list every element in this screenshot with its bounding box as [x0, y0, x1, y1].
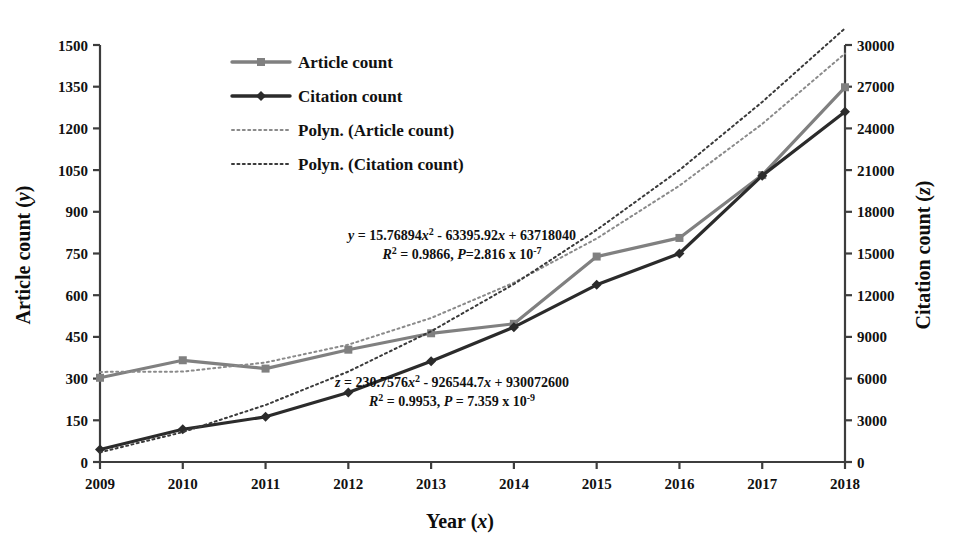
citation-eq-body: = 230.7576 [340, 375, 407, 390]
citation-eq-var1: x [407, 375, 415, 390]
citation-eq-p-body: = 7.359 x 10 [452, 394, 526, 409]
left-axis-tick-label: 0 [81, 455, 89, 471]
left-axis-title: Article count (y) [12, 186, 35, 325]
article-eq-p-body: =2.816 x 10 [466, 247, 533, 262]
x-axis-tick-label: 2014 [499, 476, 530, 492]
left-axis-tick-label: 150 [66, 413, 89, 429]
x-axis-title: Year (x) [426, 510, 494, 533]
data-point-marker [96, 374, 104, 382]
right-axis-title-end: ) [912, 181, 935, 188]
svg-text:R2 = 0.9866, P=2.816 x 10-7: R2 = 0.9866, P=2.816 x 10-7 [381, 245, 541, 262]
left-axis-title-var: y [12, 192, 35, 203]
svg-text:Year (x): Year (x) [426, 510, 494, 533]
article-eq-p-sup: -7 [533, 245, 541, 256]
right-axis-tick-label: 15000 [857, 246, 895, 262]
article-eq-var2: x [497, 228, 505, 243]
data-point-marker [179, 356, 187, 364]
article-eq-r-lead: R [381, 247, 391, 262]
x-axis-tick-label: 2011 [251, 476, 280, 492]
right-axis-tick-label: 30000 [857, 38, 895, 54]
left-axis-tick-label: 1200 [58, 121, 88, 137]
legend-item-label: Polyn. (Citation count) [298, 155, 464, 174]
left-axis-tick-label: 1500 [58, 38, 88, 54]
x-axis-title-var: x [476, 510, 487, 532]
citation-eq-body2: - 926544.7 [420, 375, 484, 390]
data-point-marker [344, 346, 352, 354]
right-axis-tick-label: 6000 [857, 371, 887, 387]
article-eq-r-body: = 0.9866, [397, 247, 457, 262]
right-axis-tick-label: 9000 [857, 329, 887, 345]
data-point-marker [675, 234, 683, 242]
article-eq-body3: + 63718040 [505, 228, 576, 243]
right-axis-title-text: Citation count ( [912, 195, 935, 330]
citation-eq-r-body: = 0.9953, [383, 394, 443, 409]
left-axis-tick-label: 300 [66, 371, 89, 387]
data-point-marker [593, 253, 601, 261]
x-axis-tick-label: 2016 [664, 476, 695, 492]
x-axis-tick-label: 2012 [333, 476, 363, 492]
svg-text:R2 = 0.9953, P = 7.359 x 10-9: R2 = 0.9953, P = 7.359 x 10-9 [368, 392, 535, 409]
left-axis-tick-label: 450 [66, 329, 89, 345]
right-axis-tick-label: 3000 [857, 413, 887, 429]
x-axis-tick-label: 2013 [416, 476, 446, 492]
right-axis-tick-label: 18000 [857, 204, 895, 220]
article-eq-var1: x [421, 228, 429, 243]
citation-eq-r-lead: R [368, 394, 378, 409]
article-eq-body2: - 63395.92 [434, 228, 498, 243]
right-axis-title: Citation count (z) [912, 181, 935, 330]
svg-text:z = 230.7576x2 - 926544.7x + 9: z = 230.7576x2 - 926544.7x + 930072600 [334, 373, 569, 390]
left-axis-title-text: Article count ( [12, 201, 35, 325]
line-chart: 01503004506007509001050120013501500 0300… [0, 0, 957, 541]
article-eq-body: = 15.76894 [354, 228, 421, 243]
citation-eq-var2: x [483, 375, 491, 390]
left-axis-tick-label: 900 [66, 204, 89, 220]
left-axis-title-end: ) [12, 186, 35, 193]
legend-item-label: Article count [298, 53, 393, 72]
svg-text:Article count (y): Article count (y) [12, 186, 35, 325]
x-axis-tick-label: 2017 [747, 476, 778, 492]
data-point-marker [262, 365, 270, 373]
svg-text:Citation count (z): Citation count (z) [912, 181, 935, 330]
left-axis-tick-label: 1050 [58, 163, 88, 179]
right-axis-tick-label: 12000 [857, 288, 895, 304]
left-axis-tick-label: 750 [66, 246, 89, 262]
x-axis-tick-label: 2018 [830, 476, 860, 492]
data-point-marker [841, 83, 849, 91]
legend-item-label: Polyn. (Article count) [298, 121, 454, 140]
x-axis-tick-label: 2010 [168, 476, 198, 492]
right-axis-tick-label: 21000 [857, 163, 895, 179]
right-axis-tick-label: 0 [857, 455, 865, 471]
left-axis-tick-label: 600 [66, 288, 89, 304]
svg-text:y = 15.76894x2 - 63395.92x + 6: y = 15.76894x2 - 63395.92x + 63718040 [346, 226, 576, 243]
right-axis-tick-label: 27000 [857, 79, 895, 95]
legend-item-label: Citation count [298, 87, 403, 106]
citation-eq-p-sup: -9 [527, 392, 535, 403]
chart-container: 01503004506007509001050120013501500 0300… [0, 0, 957, 541]
x-axis-tick-label: 2015 [582, 476, 612, 492]
legend-swatch-marker [257, 58, 265, 66]
right-axis-tick-label: 24000 [857, 121, 895, 137]
right-axis-title-var: z [912, 187, 934, 196]
left-axis-tick-label: 1350 [58, 79, 88, 95]
citation-eq-body3: + 930072600 [491, 375, 569, 390]
x-axis-tick-label: 2009 [85, 476, 115, 492]
x-axis-title-end: ) [487, 510, 494, 533]
x-axis-title-text: Year ( [426, 510, 478, 533]
